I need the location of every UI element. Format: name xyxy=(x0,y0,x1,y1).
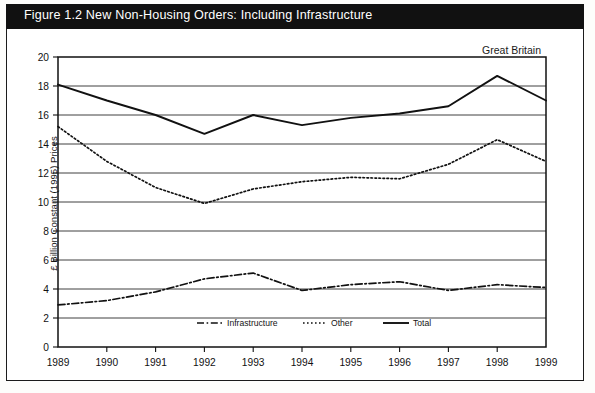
x-tick-label: 1995 xyxy=(339,357,362,368)
x-tick-label: 1997 xyxy=(437,357,460,368)
x-tick-label: 1996 xyxy=(388,357,411,368)
y-tick-label: 12 xyxy=(38,168,50,179)
legend-label-infrastructure: Infrastructure xyxy=(227,318,278,328)
y-tick-label: 2 xyxy=(43,313,49,324)
y-tick-label: 6 xyxy=(43,255,49,266)
y-tick-label: 20 xyxy=(38,52,50,63)
x-tick-label: 1989 xyxy=(47,357,70,368)
data-series-group xyxy=(58,76,546,305)
y-tick-label: 0 xyxy=(43,342,49,353)
y-tick-label: 4 xyxy=(43,284,49,295)
chart-plot-area: 02468101214161820 1989199019911992199319… xyxy=(0,0,595,393)
series-line-other xyxy=(58,127,546,204)
legend-label-other: Other xyxy=(331,318,353,328)
x-tick-label: 1994 xyxy=(291,357,314,368)
y-tick-label: 16 xyxy=(38,110,50,121)
x-tick-label: 1999 xyxy=(535,357,558,368)
line-chart-svg: 02468101214161820 1989199019911992199319… xyxy=(0,0,595,393)
y-tick-label: 10 xyxy=(38,197,50,208)
x-tick-labels-group: 1989199019911992199319941995199619971998… xyxy=(47,357,558,368)
x-tick-label: 1990 xyxy=(95,357,118,368)
series-line-total xyxy=(58,76,546,134)
y-tick-labels-group: 02468101214161820 xyxy=(38,52,50,353)
y-tick-label: 14 xyxy=(38,139,50,150)
x-tick-label: 1998 xyxy=(486,357,509,368)
gridlines-group xyxy=(58,86,546,318)
y-tick-label: 18 xyxy=(38,81,50,92)
chart-legend: InfrastructureOtherTotal xyxy=(197,318,431,328)
x-tick-label: 1991 xyxy=(144,357,167,368)
legend-label-total: Total xyxy=(413,318,431,328)
x-tick-label: 1993 xyxy=(242,357,265,368)
figure-container: Figure 1.2 New Non-Housing Orders: Inclu… xyxy=(0,0,595,393)
x-tick-label: 1992 xyxy=(193,357,216,368)
y-tick-label: 8 xyxy=(43,226,49,237)
